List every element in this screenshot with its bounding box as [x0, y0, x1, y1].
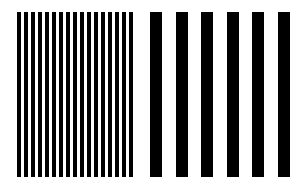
stripe-bar: [227, 12, 239, 177]
coarse-grating: [0, 12, 302, 177]
stripe-bar: [201, 12, 213, 177]
stripe-bar: [150, 12, 162, 177]
stripe-bar: [252, 12, 264, 177]
stripe-bar: [176, 12, 188, 177]
stripe-bar: [278, 12, 290, 177]
